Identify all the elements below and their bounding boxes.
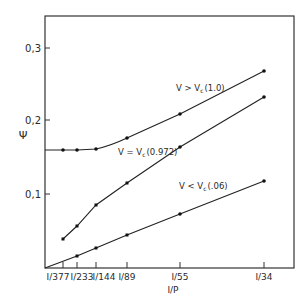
y-tick-label: 0,3 <box>25 43 41 54</box>
x-tick-label: I/55 <box>171 272 188 282</box>
chart: 0,3 0,2 0,1 Ψ I/377 I/233 I/144 I/89 I/5… <box>0 0 307 304</box>
x-tick-label: I/144 <box>93 272 116 282</box>
series-label: V > Vc(1.0) <box>176 83 225 94</box>
x-tick-label: I/34 <box>255 272 272 282</box>
x-axis: I/377 I/233 I/144 I/89 I/55 I/34 I/P <box>47 262 273 295</box>
y-axis-label: Ψ <box>19 129 28 142</box>
series-label: V = Vc(0.972) <box>118 147 177 158</box>
x-axis-label: I/P <box>167 285 179 295</box>
series-v-greater-vc: V > Vc(1.0) <box>45 69 266 152</box>
y-tick-label: 0,2 <box>25 115 41 126</box>
y-tick-label: 0,1 <box>25 189 41 200</box>
series-label: V < Vc(.06) <box>179 181 228 192</box>
plot-frame <box>45 16 294 268</box>
x-tick-label: I/89 <box>118 272 135 282</box>
x-tick-label: I/233 <box>71 272 94 282</box>
series-v-equal-vc: V = Vc(0.972) <box>62 95 266 240</box>
series-v-less-vc: V < Vc(.06) <box>45 179 266 268</box>
x-tick-label: I/377 <box>47 272 70 282</box>
